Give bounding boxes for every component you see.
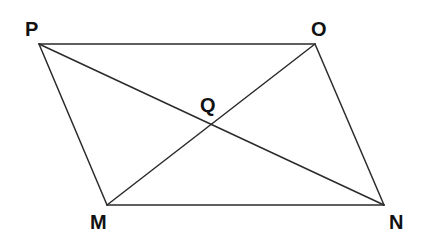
vertex-label-n: N <box>389 212 403 232</box>
edge-MP <box>39 44 107 205</box>
geometry-figure: P O Q M N <box>0 0 426 246</box>
vertex-label-q: Q <box>200 95 216 115</box>
vertex-label-o: O <box>311 19 327 39</box>
vertex-label-m: M <box>90 212 107 232</box>
vertex-label-p: P <box>25 19 38 39</box>
diagonal-MO <box>107 44 315 205</box>
edge-ON <box>315 44 384 205</box>
geometry-canvas <box>0 0 426 246</box>
